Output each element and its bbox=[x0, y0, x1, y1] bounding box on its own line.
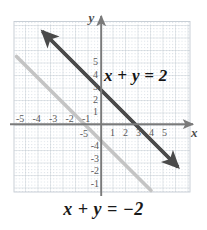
y-tick-1: 1 bbox=[93, 106, 98, 117]
y-tick--1: -5 bbox=[80, 128, 88, 139]
x-tick--4: -4 bbox=[33, 113, 41, 124]
y-tick-4: 4 bbox=[93, 69, 98, 80]
coordinate-plane: y x -5 -4 -3 -2 -1 1 2 3 4 5 -5 -4 -3 -2… bbox=[0, 0, 207, 230]
y-tick-2: 2 bbox=[93, 94, 98, 105]
y-tick-3: 3 bbox=[93, 81, 98, 92]
graph-figure: y x -5 -4 -3 -2 -1 1 2 3 4 5 -5 -4 -3 -2… bbox=[0, 0, 207, 230]
grid-background bbox=[14, 22, 191, 197]
x-tick-1: 1 bbox=[110, 127, 115, 138]
x-axis-label: x bbox=[190, 125, 198, 140]
x-tick--3: -3 bbox=[49, 113, 57, 124]
y-tick--5: -1 bbox=[91, 178, 99, 189]
y-tick-5: 5 bbox=[93, 56, 98, 67]
y-axis-label: y bbox=[87, 10, 95, 25]
x-tick-3: 3 bbox=[136, 127, 141, 138]
inline-equation-label: x + y = 2 bbox=[104, 66, 168, 86]
x-tick--5: -5 bbox=[16, 113, 24, 124]
x-tick-2: 2 bbox=[123, 127, 128, 138]
x-tick--1: -1 bbox=[82, 113, 90, 124]
x-tick-5: 5 bbox=[162, 127, 167, 138]
x-tick-4: 4 bbox=[149, 127, 154, 138]
y-tick--4: -2 bbox=[91, 165, 99, 176]
y-tick--3: -3 bbox=[91, 153, 99, 164]
x-tick--2: -2 bbox=[66, 113, 74, 124]
caption-equation-label: x + y = −2 bbox=[0, 199, 207, 220]
y-tick--2: -4 bbox=[91, 140, 99, 151]
